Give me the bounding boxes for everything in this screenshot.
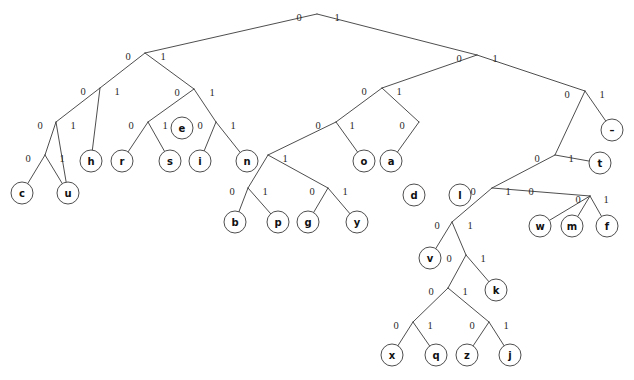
edge-bit-label: 1 <box>505 186 510 197</box>
leaf-label-k: k <box>493 285 500 296</box>
edge-bit-label: 1 <box>349 120 354 131</box>
leaf-label-c: c <box>19 188 25 199</box>
edge-bit-label: 0 <box>229 186 234 197</box>
edge-bit-label: 1 <box>492 53 497 64</box>
edge-bit-label: 1 <box>427 320 432 331</box>
leaf-label-t: t <box>598 158 603 169</box>
edge-bit-label: 1 <box>467 220 472 231</box>
edge-bit-label: 1 <box>162 120 167 131</box>
tree-edge <box>100 53 145 88</box>
tree-edge <box>382 55 477 88</box>
leaf-label-w: w <box>535 221 544 232</box>
huffman-tree-diagram: 0101010101010101010101010010101010101010… <box>0 0 634 380</box>
tree-edge <box>145 53 194 89</box>
edge-bit-label: 0 <box>197 120 202 131</box>
leaf-label-z: z <box>464 350 470 361</box>
tree-edge <box>336 88 382 122</box>
tree-edge <box>590 196 602 216</box>
nodes-layer: cuhrseinbpgyoadlvkxqzjwmft– <box>11 117 623 366</box>
edge-bit-label: 0 <box>37 120 42 131</box>
leaf-label-–: – <box>610 125 615 136</box>
edge-bit-label: 0 <box>434 220 439 231</box>
tree-edge <box>239 188 248 212</box>
tree-edge <box>452 222 466 255</box>
tree-edge <box>56 88 100 122</box>
leaf-label-j: j <box>507 350 511 361</box>
leaf-label-d: d <box>410 190 417 201</box>
tree-edge <box>492 155 555 188</box>
tree-edge <box>473 322 489 346</box>
edge-bit-label: 0 <box>528 186 533 197</box>
edge-bit-label: 0 <box>428 286 433 297</box>
edge-bit-label: 0 <box>361 86 366 97</box>
edge-bit-label: 0 <box>80 86 85 97</box>
tree-edge <box>216 122 240 152</box>
edge-bit-label: 0 <box>393 320 398 331</box>
edge-bit-label: 0 <box>128 120 133 131</box>
edge-bit-label: 1 <box>262 186 267 197</box>
edge-bit-label: 0 <box>456 53 461 64</box>
edge-bit-label: 1 <box>160 51 165 62</box>
edge-bit-label: 1 <box>59 153 64 164</box>
edge-bit-label: 1 <box>209 87 214 98</box>
leaf-label-m: m <box>567 221 577 232</box>
tree-edge <box>45 122 56 155</box>
tree-edge <box>448 288 489 322</box>
edge-bit-label: 1 <box>603 194 608 205</box>
leaf-label-i: i <box>198 156 201 167</box>
edge-bit-label: 1 <box>334 12 339 23</box>
edge-bit-label: 1 <box>568 153 573 164</box>
tree-edge <box>314 188 328 213</box>
tree-edge <box>92 88 100 150</box>
edge-bit-labels-layer: 0101010101010101010101010010101010101010… <box>25 12 608 331</box>
edge-bit-label: 0 <box>125 51 130 62</box>
edge-bit-label: 1 <box>462 286 467 297</box>
leaf-label-f: f <box>605 221 610 232</box>
leaf-label-y: y <box>354 217 361 228</box>
edge-bit-label: 1 <box>114 86 119 97</box>
edge-bit-label: 1 <box>480 253 485 264</box>
edge-bit-label: 0 <box>25 153 30 164</box>
leaf-label-o: o <box>361 156 368 167</box>
leaf-label-p: p <box>274 217 281 228</box>
edge-bit-label: 0 <box>315 120 320 131</box>
leaf-label-v: v <box>427 253 434 264</box>
tree-edge <box>268 122 336 155</box>
tree-edge <box>489 322 504 346</box>
leaf-label-r: r <box>120 156 125 167</box>
edges-layer <box>28 14 606 346</box>
leaf-label-x: x <box>389 350 396 361</box>
tree-edge <box>555 91 585 155</box>
leaf-label-u: u <box>64 188 71 199</box>
edge-bit-label: 0 <box>309 186 314 197</box>
edge-bit-label: 1 <box>396 86 401 97</box>
edge-bit-label: 1 <box>70 120 75 131</box>
edge-bit-label: 1 <box>503 320 508 331</box>
edge-bit-label: 1 <box>282 153 287 164</box>
edge-bit-label: 0 <box>564 89 569 100</box>
tree-edge <box>148 89 194 122</box>
tree-edge <box>317 14 477 55</box>
leaf-label-a: a <box>388 156 395 167</box>
edge-bit-label: 0 <box>399 120 404 131</box>
edge-bit-label: 1 <box>599 89 604 100</box>
leaf-label-q: q <box>432 350 439 361</box>
edge-bit-label: 0 <box>469 320 474 331</box>
leaf-label-s: s <box>167 156 173 167</box>
edge-bit-label: 0 <box>575 194 580 205</box>
edge-bit-label: 1 <box>342 186 347 197</box>
leaf-label-n: n <box>243 156 250 167</box>
leaf-label-e: e <box>179 123 186 134</box>
edge-bit-label: 0 <box>534 153 539 164</box>
leaf-label-l: l <box>458 190 461 201</box>
edge-bit-label: 0 <box>296 12 301 23</box>
edge-bit-label: 0 <box>446 253 451 264</box>
edge-bit-label: 0 <box>174 87 179 98</box>
edge-bit-label: 1 <box>230 120 235 131</box>
tree-edge <box>398 322 413 346</box>
leaf-label-h: h <box>87 156 94 167</box>
tree-edge <box>145 14 317 53</box>
leaf-label-g: g <box>304 217 311 228</box>
tree-edge <box>204 122 216 151</box>
leaf-label-b: b <box>231 217 238 228</box>
